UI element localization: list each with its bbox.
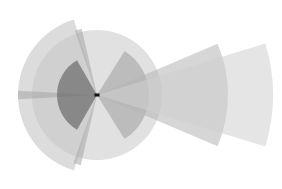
wedge-group [18,19,273,170]
radial-wedge-diagram [0,0,282,189]
center-marker [95,94,100,97]
